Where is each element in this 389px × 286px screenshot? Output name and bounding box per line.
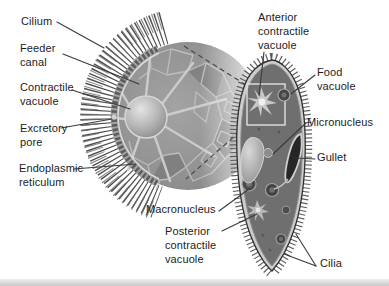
leader-cilia-1 [296, 234, 316, 266]
label-anterior-contractile-vacuole: Anterior contractile vacuole [258, 11, 309, 52]
page-edge-shadow [0, 279, 389, 286]
label-cilia: Cilia [320, 257, 342, 271]
paramecium-diagram: Cilium Feeder canal Contractile vacuole … [0, 0, 389, 286]
leader-cilia-2 [284, 254, 316, 266]
label-micronucleus: Micronucleus [307, 116, 373, 130]
food-vacuole-shape [276, 234, 286, 244]
label-food-vacuole: Food vacuole [317, 66, 356, 94]
label-posterior-contractile-vacuole: Posterior contractile vacuole [165, 225, 216, 266]
contractile-vacuole-sphere [125, 96, 167, 138]
label-endoplasmic-reticulum: Endoplasmic reticulum [19, 162, 83, 190]
food-vacuole-shape [282, 206, 290, 214]
paramecium-body [237, 60, 305, 271]
food-vacuole-shape [278, 89, 290, 101]
label-macronucleus: Macronucleus [146, 203, 216, 217]
label-contractile-vacuole: Contractile vacuole [20, 81, 74, 109]
micronucleus-shape [264, 149, 273, 158]
leader-cilium [57, 22, 104, 48]
label-cilium: Cilium [21, 15, 52, 29]
label-gullet: Gullet [317, 151, 346, 165]
label-excretory-pore: Excretory pore [20, 122, 67, 150]
label-feeder-canal: Feeder canal [20, 42, 55, 70]
food-vacuole-shape [266, 184, 279, 197]
